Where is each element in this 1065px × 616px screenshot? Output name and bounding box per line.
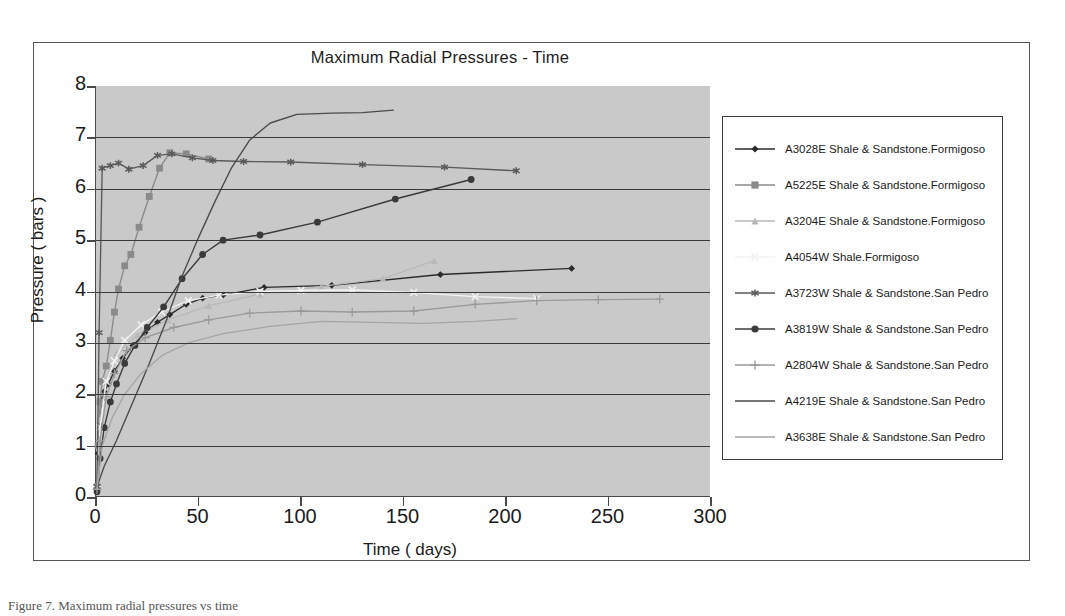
x-tick-mark-0 [95, 497, 97, 506]
legend-marker-x-icon [733, 250, 777, 264]
legend-label-3: A4054W Shale.Formigoso [777, 251, 919, 263]
x-tick-label-0: 0 [65, 505, 125, 528]
x-tick-label-150: 150 [373, 505, 433, 528]
legend-item-7[interactable]: A4219E Shale & Sandstone.San Pedro [723, 383, 1002, 419]
x-tick-mark-200 [505, 497, 507, 506]
legend-label-1: A5225E Shale & Sandstone.Formigoso [777, 179, 985, 191]
gridline-y-6 [96, 189, 710, 190]
y-tick-label-5: 5 [40, 226, 86, 249]
legend-item-4[interactable]: A3723W Shale & Sandstone.San Pedro [723, 275, 1002, 311]
legend-label-5: A3819W Shale & Sandstone.San Pedro [777, 323, 988, 335]
x-tick-label-250: 250 [578, 505, 638, 528]
marker-plus [348, 308, 357, 317]
marker-asterisk [99, 165, 106, 172]
y-tick-mark-5 [87, 240, 95, 242]
legend-item-2[interactable]: A3204E Shale & Sandstone.Formigoso [723, 203, 1002, 239]
gridline-y-3 [96, 343, 710, 344]
marker-asterisk [96, 329, 103, 336]
marker-circle [121, 360, 128, 367]
gridline-y-2 [96, 394, 710, 395]
legend-label-4: A3723W Shale & Sandstone.San Pedro [777, 287, 988, 299]
x-tick-label-100: 100 [270, 505, 330, 528]
plot-area [95, 86, 710, 497]
marker-plus [532, 296, 541, 305]
marker-square [136, 224, 143, 231]
y-tick-label-0: 0 [40, 483, 86, 506]
legend-marker-square-icon [733, 178, 777, 192]
marker-circle [468, 176, 475, 183]
x-tick-mark-50 [198, 497, 200, 506]
marker-plus [297, 307, 306, 316]
legend-marker-plus-icon [733, 358, 777, 372]
marker-square [146, 193, 153, 200]
marker-circle [199, 251, 206, 258]
y-tick-label-1: 1 [40, 432, 86, 455]
legend-label-2: A3204E Shale & Sandstone.Formigoso [777, 215, 985, 227]
legend-marker-triangle-icon [733, 214, 777, 228]
marker-circle [107, 399, 114, 406]
marker-circle [257, 232, 264, 239]
y-tick-label-3: 3 [40, 329, 86, 352]
marker-circle [144, 324, 151, 331]
x-tick-label-300: 300 [680, 505, 740, 528]
marker-circle [113, 381, 120, 388]
marker-circle [314, 219, 321, 226]
legend-marker-diamond-icon [733, 142, 777, 156]
marker-plus [204, 315, 213, 324]
marker-asterisk [107, 162, 114, 169]
marker-plus [655, 295, 664, 304]
gridline-y-5 [96, 240, 710, 241]
legend-item-1[interactable]: A5225E Shale & Sandstone.Formigoso [723, 167, 1002, 203]
y-tick-mark-3 [87, 343, 95, 345]
y-tick-mark-8 [87, 86, 95, 88]
marker-square [103, 363, 110, 370]
y-tick-mark-0 [87, 497, 95, 499]
marker-square [751, 181, 758, 188]
legend-item-6[interactable]: A2804W Shale & Sandstone.San Pedro [723, 347, 1002, 383]
marker-diamond [751, 145, 758, 152]
legend-item-0[interactable]: A3028E Shale & Sandstone.Formigoso [723, 131, 1002, 167]
x-tick-mark-100 [300, 497, 302, 506]
figure-caption: Figure 7. Maximum radial pressures vs ti… [8, 598, 608, 614]
marker-plus [471, 300, 480, 309]
x-tick-mark-150 [403, 497, 405, 506]
marker-diamond [437, 271, 444, 278]
marker-square [121, 262, 128, 269]
gridline-y-4 [96, 292, 710, 293]
legend-marker-circle-icon [733, 322, 777, 336]
marker-plus [245, 309, 254, 318]
legend-label-8: A3638E Shale & Sandstone.San Pedro [777, 431, 985, 443]
marker-triangle [431, 257, 438, 264]
marker-square [127, 251, 134, 258]
marker-triangle [134, 332, 141, 339]
marker-plus [170, 323, 179, 332]
legend-item-5[interactable]: A3819W Shale & Sandstone.San Pedro [723, 311, 1002, 347]
chart-legend: A3028E Shale & Sandstone.FormigosoA5225E… [722, 116, 1003, 460]
chart-title: Maximum Radial Pressures - Time [200, 48, 680, 67]
figure-root: Maximum Radial Pressures - Time Pressure… [0, 0, 1065, 616]
gridline-y-1 [96, 446, 710, 447]
y-tick-label-8: 8 [40, 72, 86, 95]
marker-plus [594, 295, 603, 304]
marker-square [111, 309, 118, 316]
gridline-y-7 [96, 137, 710, 138]
marker-circle [751, 325, 758, 332]
legend-label-0: A3028E Shale & Sandstone.Formigoso [777, 143, 985, 155]
series-3 [94, 287, 541, 493]
x-tick-mark-300 [710, 497, 712, 506]
y-tick-mark-6 [87, 189, 95, 191]
y-tick-label-7: 7 [40, 123, 86, 146]
legend-marker-line-icon [733, 394, 777, 408]
y-tick-mark-7 [87, 137, 95, 139]
legend-item-8[interactable]: A3638E Shale & Sandstone.San Pedro [723, 419, 1002, 455]
x-tick-label-50: 50 [168, 505, 228, 528]
legend-label-7: A4219E Shale & Sandstone.San Pedro [777, 395, 985, 407]
y-tick-mark-1 [87, 446, 95, 448]
y-tick-label-6: 6 [40, 175, 86, 198]
legend-item-3[interactable]: A4054W Shale.Formigoso [723, 239, 1002, 275]
y-tick-mark-4 [87, 292, 95, 294]
marker-square [156, 165, 163, 172]
marker-diamond [568, 265, 575, 272]
x-tick-label-200: 200 [475, 505, 535, 528]
marker-plus [750, 360, 759, 369]
